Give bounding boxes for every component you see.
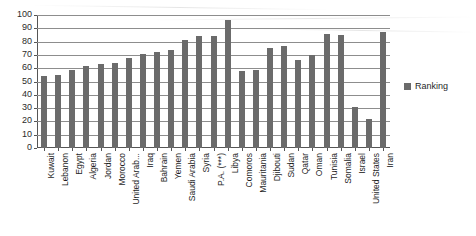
x-axis-slot: Yemen [164, 148, 178, 236]
x-axis-slot: Kuwait [37, 148, 51, 236]
plot-area [37, 15, 390, 148]
bar[interactable] [211, 36, 217, 148]
legend-swatch-ranking [404, 83, 411, 90]
x-axis-tick [44, 148, 45, 151]
bar[interactable] [55, 75, 61, 148]
y-axis-tick-label: 70 [2, 50, 32, 59]
y-axis-tick-label: 10 [2, 130, 32, 139]
x-axis-slot: Tunisia [320, 148, 334, 236]
bar[interactable] [253, 70, 259, 148]
x-axis-tick-label: Iran [386, 153, 395, 168]
bar[interactable] [41, 76, 47, 148]
bar-slot [305, 15, 319, 148]
bar[interactable] [168, 50, 174, 148]
bar[interactable] [196, 36, 202, 148]
bar-slot [207, 15, 221, 148]
x-axis-tick [242, 148, 243, 151]
x-axis-slot: P.A. (***) [207, 148, 221, 236]
bar-slot [150, 15, 164, 148]
bar[interactable] [309, 55, 315, 148]
bar-slot [94, 15, 108, 148]
x-axis-tick [115, 148, 116, 151]
bar-slot [178, 15, 192, 148]
bar[interactable] [281, 46, 287, 148]
bar[interactable] [182, 40, 188, 148]
x-axis-slot: Jordan [94, 148, 108, 236]
bar-slot [192, 15, 206, 148]
bar-slot [362, 15, 376, 148]
x-axis-slot: Egypt [65, 148, 79, 236]
bar-slot [334, 15, 348, 148]
x-axis-slot: Oman [305, 148, 319, 236]
x-axis-tick [101, 148, 102, 151]
x-axis-slot: United States [362, 148, 376, 236]
x-axis-slot: Djibouti [263, 148, 277, 236]
x-axis-tick [369, 148, 370, 151]
x-axis-tick [143, 148, 144, 151]
x-axis-tick [129, 148, 130, 151]
bar[interactable] [69, 70, 75, 148]
x-axis-tick [312, 148, 313, 151]
x-axis-tick [298, 148, 299, 151]
bar[interactable] [83, 66, 89, 148]
scan-artifact-streak [30, 5, 330, 11]
legend-label-ranking: Ranking [415, 82, 448, 91]
bar-slot [122, 15, 136, 148]
bar-slot [37, 15, 51, 148]
x-axis-tick [270, 148, 271, 151]
y-axis-tick-label: 30 [2, 103, 32, 112]
bar-slot [65, 15, 79, 148]
bar-slot [51, 15, 65, 148]
bar-slot [291, 15, 305, 148]
x-axis-tick [199, 148, 200, 151]
x-axis-tick [185, 148, 186, 151]
x-axis-tick [341, 148, 342, 151]
x-axis-slot: Mauritania [249, 148, 263, 236]
x-axis-tick [72, 148, 73, 151]
x-axis-tick [171, 148, 172, 151]
x-axis-slot: Comoros [235, 148, 249, 236]
bar[interactable] [225, 20, 231, 148]
bar-slot [221, 15, 235, 148]
x-axis-slot: Libya [221, 148, 235, 236]
x-axis-labels: KuwaitLebanonEgyptAlgeriaJordanMoroccoUn… [37, 148, 390, 236]
bar[interactable] [239, 71, 245, 148]
bar[interactable] [380, 32, 386, 148]
y-axis-tick-label: 100 [2, 10, 32, 19]
bar[interactable] [154, 52, 160, 148]
x-axis-slot: Lebanon [51, 148, 65, 236]
bars-layer [37, 15, 390, 148]
bar[interactable] [112, 63, 118, 148]
x-axis-slot: Iraq [136, 148, 150, 236]
x-axis-slot: Qatar [291, 148, 305, 236]
y-axis-tick-label: 40 [2, 90, 32, 99]
bar-slot [249, 15, 263, 148]
bar[interactable] [324, 34, 330, 148]
bar[interactable] [98, 64, 104, 148]
x-axis-tick [284, 148, 285, 151]
bar-slot [320, 15, 334, 148]
x-axis-tick [355, 148, 356, 151]
bar[interactable] [140, 54, 146, 148]
y-axis-tick-label: 0 [2, 143, 32, 152]
bar[interactable] [267, 48, 273, 148]
x-axis-slot: Morocco [108, 148, 122, 236]
x-axis-tick [86, 148, 87, 151]
y-axis-tick-label: 50 [2, 77, 32, 86]
y-axis-tick-label: 90 [2, 23, 32, 32]
x-axis-slot: Sudan [277, 148, 291, 236]
x-axis-slot: Somalia [334, 148, 348, 236]
bar-slot [164, 15, 178, 148]
x-axis-tick [383, 148, 384, 151]
bar[interactable] [366, 119, 372, 148]
bar-slot [235, 15, 249, 148]
bar[interactable] [295, 60, 301, 148]
x-axis-slot: Israel [348, 148, 362, 236]
x-axis-tick [256, 148, 257, 151]
bar-chart: 1009080706050403020100 KuwaitLebanonEgyp… [0, 0, 476, 236]
x-axis-slot: Algeria [79, 148, 93, 236]
bar[interactable] [338, 35, 344, 148]
x-axis-slot: Bahrain [150, 148, 164, 236]
bar[interactable] [126, 58, 132, 148]
bar[interactable] [352, 107, 358, 148]
